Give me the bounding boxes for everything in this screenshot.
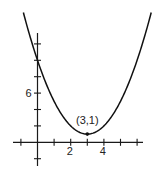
vertex-point: [86, 132, 90, 136]
axes: [13, 33, 143, 166]
vertex-label: (3,1): [76, 114, 99, 126]
x-tick-label-4: 4: [100, 145, 106, 157]
parabola-chart: 2 4 6 (3,1): [0, 0, 156, 174]
y-tick-label-6: 6: [25, 87, 31, 99]
x-tick-label-2: 2: [67, 145, 73, 157]
